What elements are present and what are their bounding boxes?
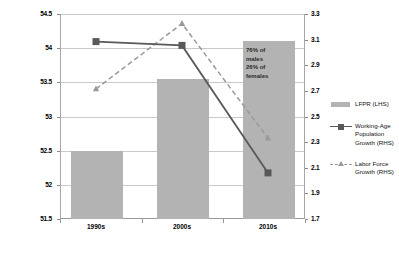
y-axis-label-left: 52.5 (12, 148, 52, 155)
y2-axis-label: 1.9 (311, 190, 341, 197)
working-age-population-growth-line (96, 42, 268, 173)
legend-item-working-age-population-growth[interactable]: Working-Age Population Growth (RHS) (330, 122, 398, 147)
y2-axis-label: 3.3 (311, 11, 341, 18)
y-axis-label-left: 54 (12, 45, 52, 52)
y-axis-label-left: 51.5 (12, 216, 52, 223)
y2-axis-tick (305, 193, 308, 194)
x-axis-label-2010s: 2010s (238, 224, 298, 231)
legend-item-lfpr[interactable]: LFPR (LHS) (330, 100, 398, 109)
working-age-marker-1990s (93, 38, 100, 45)
annotation-2010s: 76% of males 26% of females (246, 46, 286, 80)
annotation-line-1: 76% of (246, 46, 286, 55)
working-age-marker-2010s (265, 169, 272, 176)
annotation-line-3: 26% of (246, 63, 286, 72)
y2-axis-tick (305, 168, 308, 169)
x-axis-tick (305, 219, 306, 223)
legend-label-labor-force-growth: Labor Force Growth (RHS) (355, 160, 398, 177)
y2-axis-label: 2.9 (311, 62, 341, 69)
x-axis-tick (223, 219, 224, 223)
y2-axis-tick (305, 117, 308, 118)
legend-dashed-triangle-line-icon (330, 160, 352, 169)
y2-axis-tick (305, 40, 308, 41)
legend-bar-swatch-icon (330, 100, 352, 109)
working-age-marker-2000s (179, 42, 186, 49)
y2-axis-tick (305, 142, 308, 143)
y2-axis-tick (305, 65, 308, 66)
y-axis-label-left: 54.5 (12, 11, 52, 18)
legend-solid-square-line-icon (330, 122, 352, 131)
y2-axis-label: 1.7 (311, 216, 341, 223)
labor-force-marker-2010s (265, 135, 271, 141)
y2-axis-label: 2.7 (311, 88, 341, 95)
line-series-layer (60, 14, 305, 219)
chart-container: 54.5 54 53.5 53 52.5 52 51.5 3.3 3.1 2.9… (0, 0, 399, 253)
y2-axis-label: 3.1 (311, 37, 341, 44)
x-axis-label-1990s: 1990s (66, 224, 126, 231)
y-axis-label-left: 52 (12, 182, 52, 189)
y-axis-label-left: 53 (12, 114, 52, 121)
x-axis-tick (142, 219, 143, 223)
annotation-line-4: females (246, 72, 286, 81)
x-axis-tick (60, 219, 61, 223)
x-axis-label-2000s: 2000s (152, 224, 212, 231)
y2-axis-tick (305, 14, 308, 15)
legend-label-lfpr: LFPR (LHS) (355, 100, 398, 108)
legend-item-labor-force-growth[interactable]: Labor Force Growth (RHS) (330, 160, 398, 177)
labor-force-marker-2000s (179, 20, 185, 26)
labor-force-growth-line (96, 24, 268, 139)
chart-legend: LFPR (LHS) Working-Age Population Growth… (330, 100, 398, 190)
y2-axis-tick (305, 91, 308, 92)
annotation-line-2: males (246, 55, 286, 64)
y-axis-label-left: 53.5 (12, 79, 52, 86)
legend-label-working-age-population-growth: Working-Age Population Growth (RHS) (355, 122, 398, 147)
